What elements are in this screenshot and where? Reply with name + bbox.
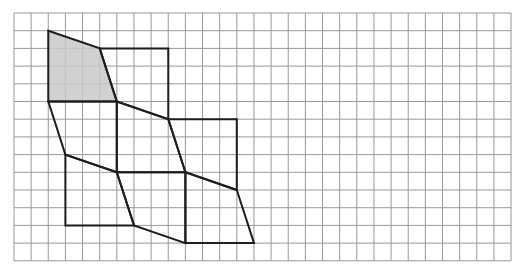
- diagram-canvas: [0, 0, 522, 277]
